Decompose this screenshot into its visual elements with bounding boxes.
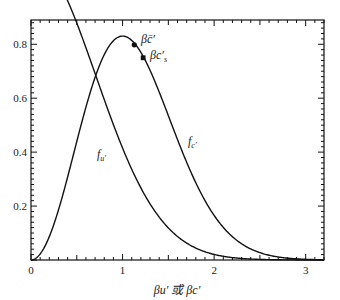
- tick-label: 3: [303, 264, 309, 276]
- tick-label: 0.6: [13, 92, 27, 104]
- annotation-c-s: βc′s: [149, 48, 167, 64]
- tick-label: 0.8: [13, 38, 27, 50]
- curve-label-f-u: fu′: [97, 147, 106, 163]
- marker-square-icon: [141, 55, 146, 60]
- x-axis-label: βu′ 或 βc′: [153, 283, 201, 297]
- annotation-mean-c: βc̄′: [140, 32, 155, 46]
- chart: 01230.20.40.60.8 fu′ fc′ βc̄′ βc′s βu′ 或…: [0, 0, 340, 300]
- tick-label: 0.4: [13, 146, 27, 158]
- curve-f-u: [31, 0, 324, 260]
- tick-label: 2: [211, 264, 217, 276]
- tick-label: 0.2: [13, 200, 27, 212]
- curve-label-f-c: fc′: [188, 134, 197, 150]
- tick-labels: 01230.20.40.60.8: [13, 38, 309, 276]
- curve-f-c: [31, 36, 324, 260]
- marker-mean-icon: [132, 42, 137, 47]
- tick-label: 0: [28, 264, 34, 276]
- tick-label: 1: [120, 264, 126, 276]
